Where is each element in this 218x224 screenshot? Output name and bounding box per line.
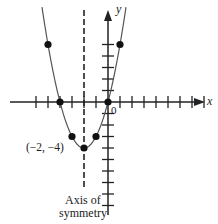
parabola-diagram: y x 0 (−2, −4) Axis of symmetry [0, 0, 218, 224]
graph-canvas [0, 0, 218, 224]
x-axis-label: x [207, 94, 212, 109]
vertex-label: (−2, −4) [26, 141, 64, 153]
y-axis-label: y [116, 2, 121, 17]
data-point [80, 144, 87, 151]
y-axis-arrow-icon [104, 10, 112, 21]
data-point [44, 41, 51, 48]
origin-label: 0 [111, 104, 117, 116]
symmetry-label-line2: symmetry [59, 206, 107, 221]
data-point [92, 133, 99, 140]
data-point [116, 41, 123, 48]
data-point [68, 133, 75, 140]
data-point [56, 98, 63, 105]
